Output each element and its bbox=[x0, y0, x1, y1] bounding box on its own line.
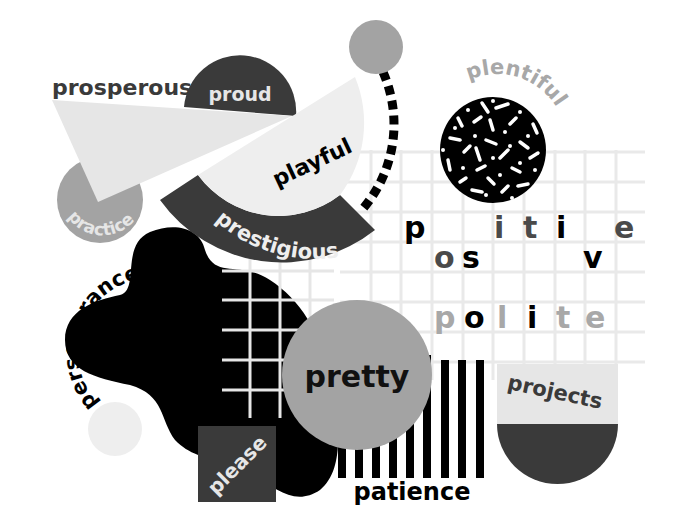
projects-bottom bbox=[497, 424, 618, 484]
positive-letter-v: v bbox=[583, 240, 603, 275]
polite-letter-t: t bbox=[556, 300, 570, 335]
polite-letter-l: l bbox=[497, 300, 507, 335]
word-prosperous: prosperous bbox=[52, 75, 192, 100]
word-proud: proud bbox=[208, 83, 271, 105]
positive-letter-o: o bbox=[434, 240, 455, 275]
gray-top-circle bbox=[349, 20, 403, 74]
light-circle bbox=[88, 402, 142, 456]
polite-letter-i: i bbox=[527, 300, 537, 335]
dashed-arc bbox=[360, 72, 394, 212]
positive-letter-t: t bbox=[523, 210, 537, 245]
sprinkle-circle bbox=[440, 97, 546, 203]
word-pretty: pretty bbox=[305, 359, 410, 394]
polite-letter-o: o bbox=[464, 300, 485, 335]
word-polite: p o l i t e bbox=[434, 300, 605, 335]
positive-letter-i2: i bbox=[556, 210, 566, 245]
word-collage-canvas: pretty please patience projects prospero… bbox=[0, 0, 680, 532]
polite-letter-e: e bbox=[585, 300, 605, 335]
word-patience: patience bbox=[354, 478, 471, 506]
polite-letter-p: p bbox=[434, 300, 455, 335]
positive-letter-p: p bbox=[404, 210, 425, 245]
positive-letter-s: s bbox=[462, 240, 480, 275]
positive-letter-i1: i bbox=[494, 210, 504, 245]
positive-letter-e: e bbox=[614, 210, 634, 245]
